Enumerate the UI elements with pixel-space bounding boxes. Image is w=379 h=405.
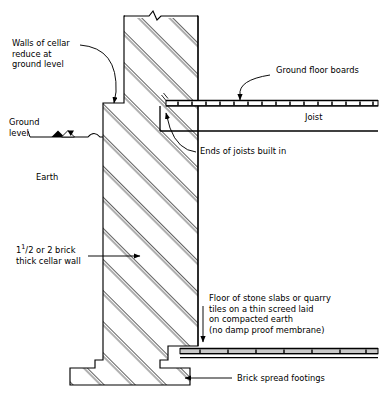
label-ends-of-joists: Ends of joists built in xyxy=(200,146,286,157)
label-joist: Joist xyxy=(305,112,322,123)
label-earth: Earth xyxy=(36,172,58,183)
label-cellar-wall: 11/2 or 2 brick thick cellar wall xyxy=(16,245,81,266)
leader-floor-boards xyxy=(240,75,270,100)
leader-walls-reduce xyxy=(80,45,116,103)
label-ground-level: Ground level xyxy=(9,117,40,138)
ground-line xyxy=(30,131,103,138)
label-floor-note: Floor of stone slabs or quarry tiles on … xyxy=(209,293,331,335)
cellar-floor-slab xyxy=(180,349,378,358)
label-brick-spread-footings: Brick spread footings xyxy=(237,373,325,384)
label-walls-reduce: Walls of cellar reduce at ground level xyxy=(12,38,70,70)
label-ground-floor-boards: Ground floor boards xyxy=(276,65,359,76)
cellar-wall-body xyxy=(70,16,198,385)
drawing-sheet: Walls of cellar reduce at ground level G… xyxy=(0,0,379,405)
